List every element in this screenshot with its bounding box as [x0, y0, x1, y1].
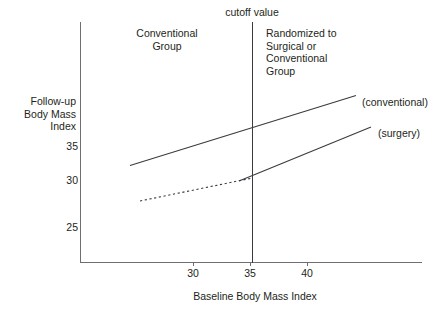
- series-line-surgery-dashed: [140, 178, 253, 201]
- y-axis-title-line2: Body Mass: [24, 108, 76, 120]
- annotation-randomized-group: Randomized toSurgical orConventionalGrou…: [266, 27, 386, 77]
- annotation-randomized-line4: Group: [266, 65, 295, 77]
- annotation-conventional-group: ConventionalGroup: [108, 27, 226, 52]
- x-tick-mark-30: [193, 262, 194, 266]
- series-line-conventional: [130, 96, 356, 166]
- x-tick-label-30: 30: [178, 267, 208, 280]
- x-tick-label-40: 40: [292, 267, 322, 280]
- annotation-conventional-group-line1: Conventional: [136, 27, 197, 39]
- annotation-conventional-group-line2: Group: [152, 40, 181, 52]
- y-axis-title-line1: Follow-up: [30, 95, 76, 107]
- series-label-surgery: (surgery): [378, 127, 444, 140]
- y-axis-title: Follow-upBody MassIndex: [6, 95, 76, 133]
- annotation-randomized-line2: Surgical or: [266, 40, 316, 52]
- x-axis-title: Baseline Body Mass Index: [130, 290, 380, 303]
- y-axis-line: [80, 22, 81, 263]
- annotation-randomized-line1: Randomized to: [266, 27, 337, 39]
- series-label-conventional: (conventional): [362, 96, 445, 109]
- cutoff-reference-line: [252, 22, 253, 263]
- x-tick-mark-35: [250, 262, 251, 266]
- y-tick-label-35: 35: [50, 140, 78, 153]
- y-tick-label-30: 30: [50, 174, 78, 187]
- cutoff-value-label: cutoff value: [200, 6, 304, 19]
- x-tick-label-35: 35: [235, 267, 265, 280]
- y-tick-label-25: 25: [50, 221, 78, 234]
- x-tick-mark-40: [307, 262, 308, 266]
- y-axis-title-line3: Index: [50, 120, 76, 132]
- series-line-surgery-solid: [239, 127, 371, 181]
- x-axis-line: [80, 262, 422, 263]
- chart-figure: Follow-upBody MassIndex 35 30 25 30 35 4…: [0, 0, 445, 322]
- annotation-randomized-line3: Conventional: [266, 52, 327, 64]
